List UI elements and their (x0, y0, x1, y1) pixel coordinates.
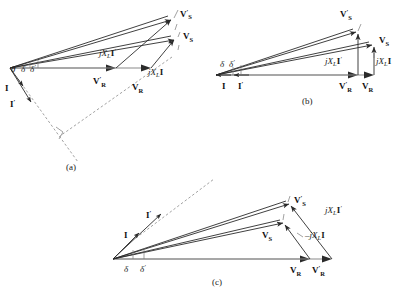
current-i-prime-label-b: I′ (238, 80, 244, 91)
phasor-diagram-figure: V′S VS jXLI′ jXLI V′R VR I I′ θ δ δ′ (0, 0, 404, 290)
vr-prime-label-c: V′R (312, 264, 325, 277)
vr-label-a: VR (132, 82, 144, 94)
svg-text:I: I (222, 81, 226, 91)
svg-text:jXLI: jXLI (375, 56, 392, 67)
svg-text:δ: δ (124, 264, 129, 274)
svg-text:VS: VS (379, 35, 390, 47)
tip-tick-a4 (178, 45, 179, 50)
jxl-i-prime-label-c: jXLI′ (324, 204, 342, 216)
svg-text:δ: δ (220, 59, 225, 69)
theta-label-a: θ (11, 64, 16, 74)
vs-phasor-b (216, 45, 372, 75)
jxl-i-prime-label-b: jXLI′ (324, 55, 342, 67)
vs-prime-edge-c (113, 201, 286, 259)
current-i-label-c: I (124, 230, 128, 240)
vs-label-b: VS (379, 35, 390, 47)
svg-text:V′R: V′R (312, 264, 325, 277)
vs-edge-b (216, 42, 369, 75)
delta-prime-label-a: δ′ (30, 63, 36, 74)
svg-text:V′R: V′R (339, 80, 352, 93)
tip-tick-c3 (297, 233, 303, 237)
vs-label-c: VS (262, 230, 273, 242)
vr-prime-label-b: V′R (339, 80, 352, 93)
vr-label-b: VR (362, 81, 374, 93)
svg-text:VS: VS (183, 31, 194, 43)
svg-text:jXLI′: jXLI′ (324, 204, 342, 216)
panel-a-caption: (a) (66, 162, 76, 172)
svg-text:VR: VR (132, 82, 144, 94)
jxl-i-label-b: jXLI (375, 56, 392, 67)
vs-prime-label-a: V′S (180, 8, 192, 20)
svg-text:V′S: V′S (340, 8, 352, 21)
panel-c: V′S VS jXLI′ –jXLI VR V′R I I′ δ δ′ (c) (113, 179, 342, 287)
minus-jxl-i-label-c: –jXLI (304, 230, 325, 241)
tip-tick-a2 (175, 24, 177, 30)
panel-b-caption: (b) (302, 96, 313, 106)
panel-b: V′S VS jXLI′ jXLI V′R VR I I′ δ δ′ (b) (216, 8, 392, 106)
delta-prime-label-c: δ′ (140, 263, 146, 274)
svg-text:jXLI′: jXLI′ (324, 55, 342, 67)
svg-text:V′S: V′S (180, 8, 192, 20)
svg-text:δ′: δ′ (229, 58, 235, 69)
svg-text:I′: I′ (10, 98, 16, 109)
vs-prime-phasor-a (10, 20, 171, 68)
jxl-i-label-a: jXLI (147, 67, 164, 78)
current-i-prime-label-c: I′ (146, 209, 152, 220)
vs-prime-edge-a (10, 16, 168, 68)
delta-prime-label-b: δ′ (229, 58, 235, 69)
tip-tick-c2 (283, 214, 284, 220)
vs-phasor-c (113, 223, 283, 259)
svg-text:VR: VR (362, 81, 374, 93)
panel-a: V′S VS jXLI′ jXLI V′R VR I I′ θ δ δ′ (5, 8, 194, 172)
svg-text:δ′: δ′ (30, 63, 36, 74)
current-i-prime-label-a: I′ (10, 98, 16, 109)
current-i-label-b: I (222, 81, 226, 91)
svg-text:V′S: V′S (294, 194, 306, 207)
tip-tick-a1 (174, 10, 178, 18)
svg-text:VS: VS (262, 230, 273, 242)
panel-c-caption: (c) (212, 277, 222, 287)
dashed-perpendicular-line-a1 (18, 79, 78, 162)
svg-text:I: I (124, 230, 128, 240)
vr-arrowhead-b (364, 72, 374, 79)
current-i-label-a: I (5, 83, 9, 93)
svg-text:I: I (5, 83, 9, 93)
svg-text:θ: θ (11, 64, 16, 74)
vs-prime-phasor-b (216, 32, 356, 75)
vr-label-c: VR (290, 265, 302, 277)
tip-tick-b1 (358, 24, 361, 31)
vs-label-a: VS (183, 31, 194, 43)
vs-prime-label-b: V′S (340, 8, 352, 21)
jxl-i-prime-phasor-a (116, 20, 171, 68)
svg-text:δ′: δ′ (140, 263, 146, 274)
svg-text:VR: VR (290, 265, 302, 277)
vs-edge-c (113, 220, 280, 259)
vs-prime-label-c: V′S (294, 194, 306, 207)
svg-text:I′: I′ (146, 209, 152, 220)
delta-label-c: δ (124, 264, 129, 274)
svg-text:V′R: V′R (93, 75, 106, 88)
svg-text:I′: I′ (238, 80, 244, 91)
svg-text:–jXLI: –jXLI (304, 230, 325, 241)
svg-text:jXLI: jXLI (147, 67, 164, 78)
tip-tick-a3 (178, 32, 180, 37)
vs-prime-edge-b (216, 29, 353, 75)
delta-label-b: δ (220, 59, 225, 69)
current-i-prime-phasor-c (113, 214, 161, 259)
vr-prime-label-a: V′R (93, 75, 106, 88)
tip-tick-c1 (288, 196, 290, 202)
